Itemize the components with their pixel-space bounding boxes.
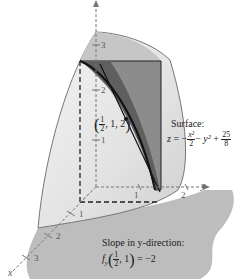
y-axis-label: y <box>201 181 205 190</box>
point-label: (12, 1, 2) <box>94 116 131 133</box>
x-tick-2: 2 <box>56 232 61 241</box>
y-tick-2: 2 <box>181 191 186 200</box>
surface-equation: z = −x²2− y² + 258 <box>167 131 231 148</box>
surface-label: Surface: <box>171 118 204 129</box>
z-tick-2: 2 <box>101 86 106 95</box>
slope-equation: fy(12, 1) = −2 <box>102 251 156 269</box>
z-axis-arrow <box>93 0 99 7</box>
y-tick-1: 1 <box>134 191 139 200</box>
x-axis-label: x <box>8 268 12 277</box>
slope-label: Slope in y-direction: <box>102 237 184 248</box>
x-tick-1: 1 <box>79 210 84 219</box>
x-tick-3: 3 <box>34 254 39 263</box>
z-tick-1: 1 <box>101 136 106 145</box>
z-tick-3: 3 <box>101 41 106 50</box>
